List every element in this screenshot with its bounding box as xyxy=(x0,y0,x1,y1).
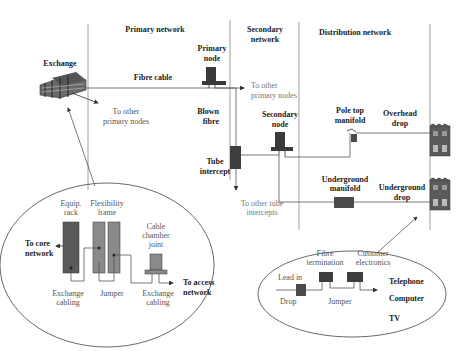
secondary-node-icon xyxy=(271,132,293,157)
label-flex-frame-2: frame xyxy=(98,208,117,217)
customer-electronics-icon xyxy=(347,272,363,282)
label-equip-rack-1: Equip. xyxy=(60,199,81,208)
house-overhead-icon xyxy=(430,124,450,156)
label-flex-frame-1: Flexibility xyxy=(90,199,123,208)
label-telephone: Telephone xyxy=(389,277,424,286)
lead-in-icon xyxy=(296,284,306,296)
network-diagram: Primary network Secondary network Distri… xyxy=(0,0,472,351)
label-secondary-node-2: node xyxy=(272,120,289,129)
label-drop: Drop xyxy=(280,297,296,306)
label-ug-manifold-2: manifold xyxy=(330,184,361,193)
label-fibre-term-2: termination xyxy=(307,258,344,267)
label-chamber-2: chamber xyxy=(142,231,170,240)
label-jumper: Jumper xyxy=(100,289,124,298)
fibre-termination-icon xyxy=(319,272,333,282)
label-lead-in: Lead in xyxy=(278,273,302,282)
label-primary-node-1: Primary xyxy=(198,44,227,53)
label-ug-drop-2: drop xyxy=(394,193,411,202)
label-pole-top-2: manifold xyxy=(335,116,366,125)
label-exch-cabling-2a: Exchange xyxy=(142,289,174,298)
label-to-core-2: network xyxy=(25,249,54,258)
label-primary-node-2: node xyxy=(204,54,221,63)
label-exchange: Exchange xyxy=(43,59,77,68)
label-overhead-2: drop xyxy=(392,119,409,128)
label-tube-intercept-1: Tube xyxy=(206,157,224,166)
label-fibre-cable: Fibre cable xyxy=(134,73,173,82)
primary-node-icon xyxy=(202,67,226,88)
heading-primary-network: Primary network xyxy=(125,25,185,34)
exchange-building-icon xyxy=(40,72,86,99)
label-computer: Computer xyxy=(389,294,425,303)
label-cust-elec-2: electronics xyxy=(356,258,391,267)
label-blown-fibre-2: fibre xyxy=(203,117,220,126)
callout-arrow-exchange xyxy=(68,108,95,186)
heading-secondary-network-2: network xyxy=(251,35,280,44)
label-tv: TV xyxy=(389,314,400,323)
label-fibre-term-1: Fibre xyxy=(317,249,334,258)
underground-manifold-icon xyxy=(334,197,354,208)
label-chamber-3: joint xyxy=(148,240,164,249)
house-underground-icon xyxy=(430,178,450,210)
heading-secondary-network-1: Secondary xyxy=(247,25,283,34)
label-to-other-primary-1b: primary nodes xyxy=(103,117,149,126)
label-exch-cabling-1a: Exchange xyxy=(52,289,84,298)
label-to-other-primary-2a: To other xyxy=(251,81,278,90)
tube-intercept-icon xyxy=(230,146,241,169)
label-overhead-1: Overhead xyxy=(383,109,417,118)
label-blown-fibre-1: Blown xyxy=(197,107,219,116)
label-to-core-1: To core xyxy=(25,239,51,248)
label-pole-top-1: Pole top xyxy=(336,106,364,115)
label-exch-cabling-2b: cabling xyxy=(146,298,170,307)
label-to-access-2: network xyxy=(183,288,212,297)
label-exch-cabling-1b: cabling xyxy=(56,298,80,307)
label-to-other-tube-2: intercepts xyxy=(246,208,277,217)
label-cust-elec-1: Customer xyxy=(357,249,388,258)
label-to-other-tube-1: To other tube xyxy=(241,199,284,208)
label-chamber-1: Cable xyxy=(147,222,166,231)
arrow-to-other-primary xyxy=(72,93,98,103)
label-tube-intercept-2: intercept xyxy=(200,167,231,176)
cable-chamber-joint-icon xyxy=(150,254,162,270)
label-to-other-primary-2b: primary nodes xyxy=(251,91,297,100)
pole-top-manifold-icon xyxy=(347,129,357,142)
label-equip-rack-2: rack xyxy=(64,208,78,217)
label-to-access-1: To access xyxy=(183,278,214,287)
heading-distribution-network: Distribution network xyxy=(319,28,392,37)
label-ug-drop-1: Underground xyxy=(379,183,426,192)
label-to-other-primary-1a: To other xyxy=(113,107,140,116)
label-secondary-node-1: Secondary xyxy=(262,110,298,119)
callout-arrow-customer xyxy=(378,217,417,252)
label-jumper-cust: Jumper xyxy=(328,297,352,306)
label-ug-manifold-1: Underground xyxy=(322,175,369,184)
equip-rack-icon xyxy=(63,222,79,273)
